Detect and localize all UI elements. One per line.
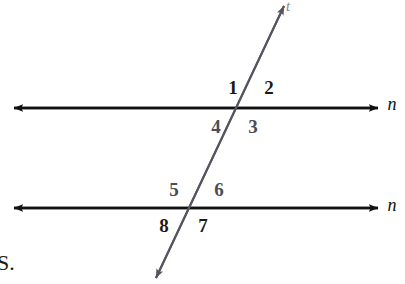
geometry-figure: 1 2 3 4 5 6 7 8 n n t S. [0,0,405,284]
transversal-line-bottom-arrow [156,6,284,278]
angle-label-1: 1 [228,78,238,97]
angle-label-3: 3 [248,117,258,136]
angle-label-4: 4 [211,117,221,136]
top-line-label-n: n [388,95,397,113]
angle-label-7: 7 [198,216,208,235]
angle-label-8: 8 [159,216,169,235]
angle-label-5: 5 [169,180,179,199]
diagram-canvas [0,0,405,284]
angle-label-6: 6 [214,180,224,199]
bottom-line-label-n: n [388,196,397,214]
transversal-label-t: t [286,0,290,14]
angle-label-2: 2 [264,78,274,97]
stray-page-text: S. [0,252,15,274]
